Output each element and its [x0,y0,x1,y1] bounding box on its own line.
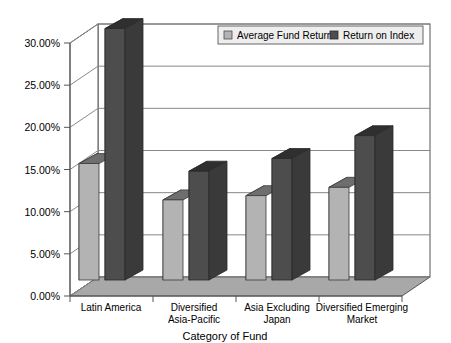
category-label-2-line-0: Asia Excluding [244,302,310,313]
y-axis-tick-labels: 0.00% 5.00% 10.00% 15.00% 20.00% 25.00% … [24,37,60,302]
legend-swatch-icon [224,31,232,39]
category-label-2-line-1: Japan [263,314,290,325]
bar-front-face [329,187,349,280]
chart-canvas: 0.00% 5.00% 10.00% 15.00% 20.00% 25.00% … [0,0,451,343]
category-label-0-line-0: Latin America [81,302,142,313]
bar-chart: 0.00% 5.00% 10.00% 15.00% 20.00% 25.00% … [0,0,451,343]
y-tick-label-25: 25.00% [24,79,60,91]
bar-right-face [375,126,393,280]
category-label-1-line-0: Diversified [171,302,218,313]
category-label-1-line-1: Asia-Pacific [168,314,220,325]
bar-return-on-index-1[interactable] [189,161,227,280]
bar-return-on-index-2[interactable] [272,149,310,281]
legend-label-0: Average Fund Return [237,30,332,41]
y-tick-label-30: 30.00% [24,37,60,49]
bar-return-on-index-0[interactable] [105,19,143,280]
bar-right-face [125,19,143,280]
bar-right-face [292,149,310,281]
y-tick-label-0: 0.00% [30,290,60,302]
legend-entry-return-on-index[interactable]: Return on Index [330,30,414,41]
bar-front-face [246,196,266,280]
legend: Average Fund Return Return on Index [218,26,423,44]
bar-front-face [189,171,209,280]
y-axis [64,43,70,296]
bar-right-face [209,161,227,280]
bar-front-face [79,164,99,280]
bar-front-face [272,159,292,281]
y-tick-label-20: 20.00% [24,121,60,133]
x-axis-category-labels: Latin America Diversified Asia-Pacific A… [81,302,408,325]
y-tick-label-5: 5.00% [30,248,60,260]
bar-front-face [355,136,375,280]
bar-return-on-index-3[interactable] [355,126,393,280]
bar-front-face [105,29,125,280]
legend-swatch-icon [330,31,338,39]
legend-label-1: Return on Index [343,30,414,41]
x-axis-title: Category of Fund [183,330,268,342]
y-tick-label-15: 15.00% [24,164,60,176]
bar-front-face [163,200,183,280]
legend-entry-average-fund-return[interactable]: Average Fund Return [224,30,332,41]
category-label-3-line-1: Market [347,314,378,325]
y-tick-label-10: 10.00% [24,206,60,218]
category-label-3-line-0: Diversified Emerging [316,302,408,313]
